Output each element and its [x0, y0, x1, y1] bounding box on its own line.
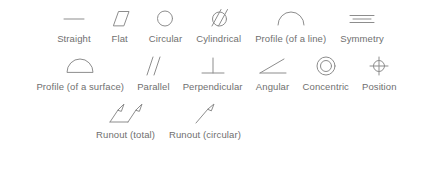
total-runout-double-arrow-icon — [104, 102, 148, 126]
perpendicularity-tee-icon — [198, 54, 228, 78]
symbol-row-3: Runout (total) Runout (circular) — [0, 93, 433, 141]
profile-of-a-line-arc-icon — [271, 6, 311, 30]
symbol-label: Position — [362, 81, 397, 93]
symbol-row-2: Profile (of a surface) Parallel Perpendi… — [0, 45, 433, 93]
symbol-cell-symmetry: Symmetry — [340, 6, 384, 45]
symbol-label: Circular — [149, 33, 183, 45]
symbol-cell-profile-of-a-line: Profile (of a line) — [255, 6, 326, 45]
symbol-label: Perpendicular — [183, 81, 243, 93]
symbol-cell-circular: Circular — [149, 6, 183, 45]
symbol-cell-angular: Angular — [256, 54, 290, 93]
cylindricity-slashed-circle-icon — [203, 6, 235, 30]
symbol-cell-concentric: Concentric — [303, 54, 349, 93]
angularity-angle-icon — [256, 54, 290, 78]
symbol-label: Runout (total) — [96, 129, 155, 141]
concentricity-two-circles-icon — [311, 54, 341, 78]
symbol-cell-parallel: Parallel — [137, 54, 169, 93]
symbol-label: Profile (of a surface) — [36, 81, 124, 93]
symbol-cell-flat: Flat — [105, 6, 135, 45]
gdt-symbol-reference-chart: Straight Flat Circular — [0, 0, 433, 174]
symbol-cell-perpendicular: Perpendicular — [183, 54, 243, 93]
circular-runout-single-arrow-icon — [188, 102, 222, 126]
symbol-cell-runout-total: Runout (total) — [96, 102, 155, 141]
circularity-circle-icon — [150, 6, 180, 30]
symbol-row-1: Straight Flat Circular — [0, 0, 433, 45]
parallelism-two-slanted-lines-icon — [139, 54, 167, 78]
symbol-label: Parallel — [137, 81, 169, 93]
symbol-cell-runout-circular: Runout (circular) — [169, 102, 241, 141]
flatness-parallelogram-icon — [105, 6, 135, 30]
symmetry-three-lines-icon — [346, 6, 378, 30]
symbol-label: Symmetry — [340, 33, 384, 45]
symbol-cell-cylindrical: Cylindrical — [196, 6, 241, 45]
symbol-cell-profile-of-a-surface: Profile (of a surface) — [36, 54, 124, 93]
position-crosshair-circle-icon — [364, 54, 394, 78]
symbol-cell-position: Position — [362, 54, 397, 93]
symbol-label: Straight — [57, 33, 91, 45]
symbol-label: Runout (circular) — [169, 129, 241, 141]
symbol-label: Cylindrical — [196, 33, 241, 45]
profile-of-a-surface-half-circle-icon — [59, 54, 101, 78]
straightness-line-icon — [59, 6, 89, 30]
symbol-label: Angular — [256, 81, 289, 93]
symbol-label: Profile (of a line) — [255, 33, 326, 45]
symbol-label: Flat — [112, 33, 128, 45]
symbol-label: Concentric — [303, 81, 349, 93]
symbol-cell-straight: Straight — [57, 6, 91, 45]
